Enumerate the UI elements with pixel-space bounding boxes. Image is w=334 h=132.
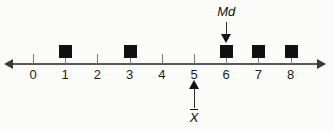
- right-arrowhead-icon: [317, 59, 326, 69]
- axis-tick-label: 8: [279, 67, 303, 83]
- data-point-marker: [59, 45, 72, 58]
- axis-tick-label: 4: [150, 67, 174, 83]
- number-line-figure: 012345678 MdX: [0, 0, 334, 132]
- axis-tick: [162, 54, 163, 64]
- annotation-label: X: [174, 110, 214, 125]
- axis-tick-label: 7: [246, 67, 270, 83]
- axis-tick-label: 6: [214, 67, 238, 83]
- data-point-marker: [220, 45, 233, 58]
- axis-tick-label: 2: [85, 67, 109, 83]
- left-arrowhead-icon: [4, 59, 13, 69]
- data-point-marker: [124, 45, 137, 58]
- axis-tick: [194, 54, 195, 64]
- axis-tick-label: 0: [21, 67, 45, 83]
- data-point-marker: [285, 45, 298, 58]
- axis-tick-label: 3: [118, 67, 142, 83]
- annotation-arrow-shaft: [226, 22, 227, 38]
- x-bar-symbol: X: [190, 110, 199, 125]
- axis-tick: [97, 54, 98, 64]
- axis-tick: [33, 54, 34, 64]
- number-line-axis: [12, 63, 322, 65]
- axis-tick-label: 1: [53, 67, 77, 83]
- data-point-marker: [252, 45, 265, 58]
- annotation-label: Md: [206, 4, 246, 19]
- annotation-arrow-shaft: [194, 88, 195, 108]
